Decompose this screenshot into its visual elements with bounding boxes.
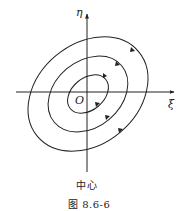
xi-label: ξ [168, 98, 174, 111]
orbit-inner [60, 67, 116, 121]
orbit-outer [5, 13, 170, 174]
arrow-icon [95, 102, 100, 107]
eta-label: η [76, 6, 83, 19]
subtitle: 中心 [76, 177, 97, 192]
origin-label: O [75, 94, 84, 107]
orbit-middle [33, 40, 143, 147]
figure-caption: 图 8.6-6 [68, 196, 110, 211]
arrow-icon [103, 73, 107, 78]
